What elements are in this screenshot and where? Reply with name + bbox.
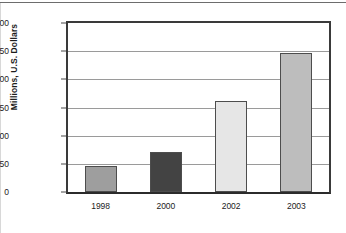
y-axis-tick-label: 300	[0, 18, 9, 28]
bar[interactable]	[85, 166, 117, 192]
bar[interactable]	[150, 152, 182, 192]
y-axis-tick-label: 0	[0, 187, 9, 197]
page-left-edge	[0, 3, 1, 233]
x-axis-tick-label: 1998	[66, 201, 136, 211]
page-top-rule	[0, 2, 346, 3]
x-axis-tick-label: 2000	[131, 201, 201, 211]
y-axis-tick-label: 250	[0, 46, 9, 56]
x-axis-tick-label: 2003	[261, 201, 331, 211]
x-axis-tick-label: 2002	[196, 201, 266, 211]
y-axis-tick-label: 100	[0, 131, 9, 141]
bar-slot	[264, 23, 329, 192]
bar-slot	[133, 23, 198, 192]
plot-area	[66, 21, 331, 194]
bar-series	[68, 23, 329, 192]
y-axis-tick-label: 150	[0, 103, 9, 113]
bar-slot	[68, 23, 133, 192]
bar-slot	[199, 23, 264, 192]
y-axis-tick-label: 200	[0, 74, 9, 84]
bar-chart-figure: Millions, U.S. Dollars 05010015020025030…	[0, 0, 346, 233]
bar[interactable]	[280, 53, 312, 192]
y-axis-tick-label: 50	[0, 159, 9, 169]
bar[interactable]	[215, 101, 247, 192]
y-axis-title: Millions, U.S. Dollars	[9, 7, 19, 127]
